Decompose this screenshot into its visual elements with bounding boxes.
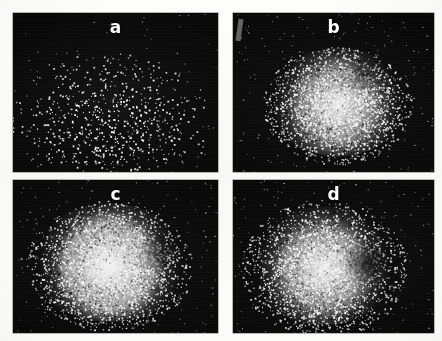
- scatter-panel-b: b: [233, 13, 434, 172]
- scatter-panel-c: c: [13, 180, 218, 333]
- scatter-panel-a: a: [13, 13, 218, 172]
- panel-a-label: a: [110, 19, 121, 36]
- scatter-panel-d: d: [233, 180, 434, 333]
- panel-b-label: b: [327, 19, 339, 36]
- panel-d-label: d: [327, 186, 339, 203]
- panel-c-label: c: [110, 186, 120, 203]
- figure-sheet: a b c d: [0, 0, 442, 341]
